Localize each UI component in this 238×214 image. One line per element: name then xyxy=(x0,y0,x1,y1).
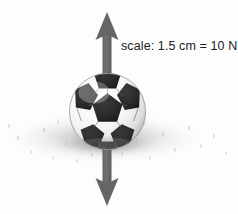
scale-annotation-label: scale: 1.5 cm = 10 N xyxy=(121,38,237,54)
force-diagram-figure: scale: 1.5 cm = 10 N xyxy=(0,0,238,214)
soccer-ball-icon xyxy=(68,72,147,151)
